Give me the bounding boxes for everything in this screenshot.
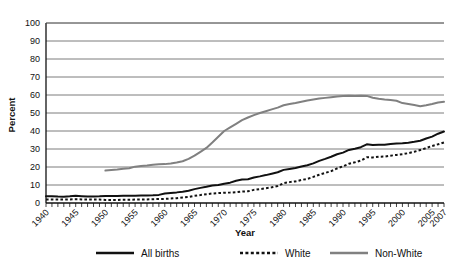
y-tick-label: 20 [30,162,40,172]
series-line-non-white [105,96,444,171]
x-tick-label: 1980 [267,207,288,228]
x-tick-label: 1960 [148,207,169,228]
x-tick-label: 1950 [89,207,110,228]
y-tick-label: 60 [30,90,40,100]
x-tick-label: 2000 [386,207,407,228]
y-axis-title: Percent [6,97,17,133]
y-tick-label: 70 [30,72,40,82]
x-tick-label: 1995 [356,207,377,228]
line-chart: 0102030405060708090100 19401945195019551… [0,0,459,266]
y-tick-label: 90 [30,36,40,46]
x-tick-label: 1945 [59,207,80,228]
chart-figure: 0102030405060708090100 19401945195019551… [0,0,459,266]
y-tick-label: 50 [30,108,40,118]
legend-label-white: White [285,248,311,259]
legend-label-all-births: All births [141,248,179,259]
x-tick-label: 1940 [30,207,51,228]
y-tick-label: 10 [30,180,40,190]
y-axis-tick-labels: 0102030405060708090100 [25,18,40,208]
x-axis-tick-labels: 1940194519501955196019651970197519801985… [30,207,449,228]
x-tick-label: 1970 [208,207,229,228]
y-tick-label: 100 [25,18,40,28]
y-tick-label: 80 [30,54,40,64]
x-tick-label: 1985 [297,207,318,228]
y-tick-label: 40 [30,126,40,136]
x-tick-label: 1955 [119,207,140,228]
data-series [46,96,444,200]
legend-label-non-white: Non-White [375,248,423,259]
x-tick-label: 1965 [178,207,199,228]
series-line-all-births [46,132,444,197]
x-axis-title: Year [235,227,255,238]
x-tick-label: 1975 [238,207,259,228]
x-tick-label: 1990 [327,207,348,228]
chart-legend: All birthsWhiteNon-White [96,248,423,259]
gridlines [46,23,444,185]
y-tick-label: 0 [35,198,40,208]
y-tick-label: 30 [30,144,40,154]
